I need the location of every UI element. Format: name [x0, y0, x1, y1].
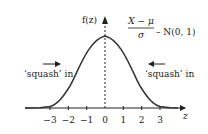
svg-text:1: 1 — [120, 115, 126, 125]
y-axis-label: f(z) — [82, 15, 97, 25]
left-annotation: ‘squash’ in — [24, 69, 73, 79]
formula-numerator: X − μ — [127, 16, 154, 26]
svg-text:0: 0 — [102, 115, 108, 125]
y-axis-arrow-icon — [102, 16, 108, 24]
svg-text:−1: −1 — [80, 115, 93, 125]
tick-labels: −3 −2 −1 0 1 2 3 — [43, 115, 163, 125]
x-axis-label: z — [182, 111, 188, 121]
svg-text:−3: −3 — [43, 115, 57, 125]
normal-distribution-diagram: −3 −2 −1 0 1 2 3 z f(z) X − μ σ – N(0, 1… — [0, 0, 208, 134]
formula-denominator: σ — [138, 30, 145, 40]
right-annotation: ‘squash’ in — [145, 69, 194, 79]
svg-text:3: 3 — [157, 115, 163, 125]
svg-text:−2: −2 — [62, 115, 75, 125]
svg-text:2: 2 — [139, 115, 145, 125]
formula-rhs: – N(0, 1) — [156, 27, 195, 37]
